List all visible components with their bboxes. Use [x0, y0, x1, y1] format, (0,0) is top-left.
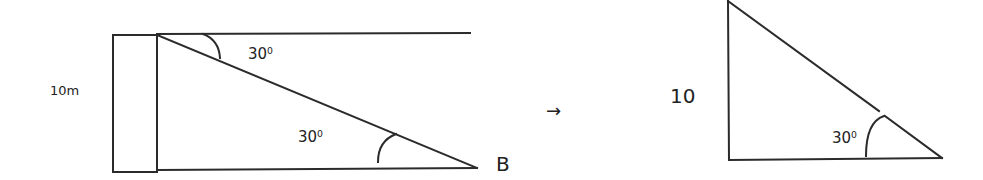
angle-value: 30: [248, 45, 267, 63]
angle-label-top: 300: [248, 47, 273, 62]
angle-value: 30: [832, 129, 851, 147]
triangle-angle-label: 300: [832, 131, 857, 146]
triangle-angle-arc: [866, 116, 884, 156]
hypotenuse-line: [157, 35, 477, 168]
angle-value: 30: [298, 128, 317, 146]
triangle-hypotenuse-upper: [728, 1, 879, 111]
triangle-height-label: 10: [670, 86, 695, 106]
degree-mark: 0: [851, 129, 857, 140]
triangle-vertical-side: [728, 1, 729, 160]
elevation-angle-arc: [378, 134, 396, 162]
degree-mark: 0: [317, 128, 323, 139]
degree-mark: 0: [267, 45, 273, 56]
triangle-hypotenuse-lower: [885, 116, 942, 158]
point-b-label: B: [496, 154, 510, 174]
triangle-base: [729, 158, 942, 160]
diagram-canvas: [0, 0, 983, 180]
angle-label-bottom: 300: [298, 130, 323, 145]
right-arrow-icon: →: [546, 102, 561, 120]
ground-line: [157, 168, 477, 170]
building-rect: [113, 35, 157, 172]
height-label-10m: 10m: [50, 84, 79, 97]
